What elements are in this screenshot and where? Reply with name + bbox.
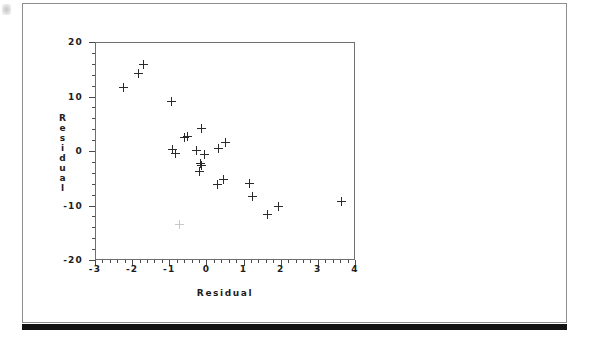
y-axis-tick <box>89 260 95 261</box>
x-tick-label: 2 <box>277 264 284 274</box>
x-tick-label: 1 <box>240 264 247 274</box>
y-axis-tick <box>92 227 95 228</box>
y-axis-title-char: R <box>57 113 68 123</box>
y-axis-title-char: s <box>57 133 68 143</box>
x-axis-tick <box>251 260 252 263</box>
x-tick-label: 3 <box>314 264 321 274</box>
x-axis-tick <box>221 260 222 263</box>
y-axis-tick <box>89 151 95 152</box>
y-axis-title-char: u <box>57 163 68 173</box>
x-axis-tick <box>177 260 178 263</box>
y-tick-label: 20 <box>68 37 83 47</box>
y-axis-tick <box>92 249 95 250</box>
x-axis-tick <box>325 260 326 263</box>
y-axis-title-char: i <box>57 143 68 153</box>
y-axis-tick <box>92 129 95 130</box>
x-axis-tick <box>162 260 163 263</box>
y-axis-tick <box>89 206 95 207</box>
y-axis-tick <box>92 162 95 163</box>
y-tick-label: 0 <box>76 146 83 156</box>
x-axis-tick <box>199 260 200 263</box>
y-axis-tick <box>92 64 95 65</box>
x-axis-tick <box>184 260 185 263</box>
x-axis-tick <box>266 260 267 263</box>
x-axis-tick <box>110 260 111 263</box>
y-axis-tick <box>92 140 95 141</box>
x-axis-title: Residual <box>197 288 253 298</box>
x-axis-tick <box>258 260 259 263</box>
x-tick-label: -1 <box>163 264 175 274</box>
y-axis-tick <box>92 107 95 108</box>
scatter-plot-figure: -3-2-101234-20-1001020 Residual Residual <box>0 0 589 345</box>
x-axis-tick <box>154 260 155 263</box>
x-axis-tick <box>236 260 237 263</box>
y-axis-tick <box>92 53 95 54</box>
x-tick-label: -3 <box>89 264 101 274</box>
y-tick-label: -10 <box>63 201 83 211</box>
plot-area-frame <box>95 42 355 260</box>
x-axis-tick <box>310 260 311 263</box>
x-axis-tick <box>296 260 297 263</box>
x-axis-tick <box>229 260 230 263</box>
x-axis-tick <box>125 260 126 263</box>
x-axis-tick <box>348 260 349 263</box>
x-axis-tick <box>273 260 274 263</box>
y-axis-tick <box>92 184 95 185</box>
y-axis-tick <box>92 118 95 119</box>
y-axis-title-char: e <box>57 123 68 133</box>
x-axis-tick <box>303 260 304 263</box>
y-tick-label: 10 <box>68 92 83 102</box>
x-axis-tick <box>333 260 334 263</box>
y-axis-tick <box>89 97 95 98</box>
y-axis-tick <box>92 195 95 196</box>
y-tick-label: -20 <box>63 255 83 265</box>
x-axis-tick <box>117 260 118 263</box>
y-axis-tick <box>92 238 95 239</box>
y-axis-tick <box>92 75 95 76</box>
x-axis-tick <box>102 260 103 263</box>
x-axis-tick <box>214 260 215 263</box>
x-tick-label: -2 <box>126 264 138 274</box>
x-axis-tick <box>340 260 341 263</box>
y-axis-tick <box>92 173 95 174</box>
y-axis-title-char: d <box>57 153 68 163</box>
x-axis-tick <box>140 260 141 263</box>
y-axis-title-char: a <box>57 173 68 183</box>
x-axis-tick <box>192 260 193 263</box>
y-axis-tick <box>89 42 95 43</box>
x-tick-label: 0 <box>203 264 210 274</box>
y-axis-title: Residual <box>57 113 68 193</box>
y-axis-tick <box>92 216 95 217</box>
y-axis-tick <box>92 86 95 87</box>
y-axis-title-char: l <box>57 183 68 193</box>
x-tick-label: 4 <box>351 264 358 274</box>
x-axis-tick <box>147 260 148 263</box>
x-axis-tick <box>288 260 289 263</box>
